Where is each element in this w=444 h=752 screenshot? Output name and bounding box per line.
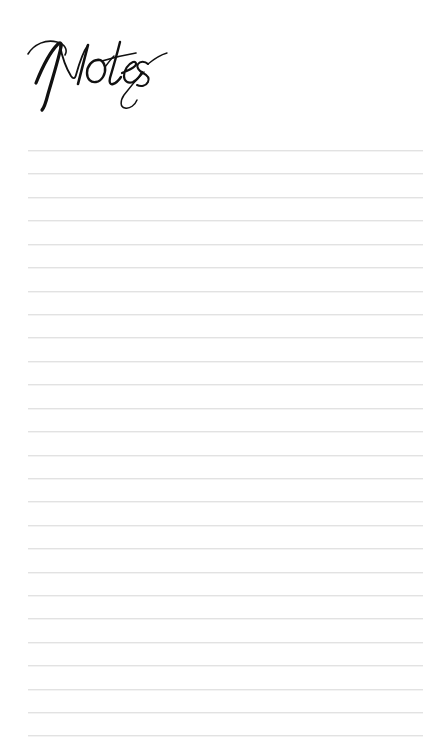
rule-line <box>28 408 423 409</box>
rule-line <box>28 197 423 198</box>
rule-line <box>28 267 423 268</box>
rule-line <box>28 618 423 619</box>
rule-line <box>28 478 423 479</box>
rule-line <box>28 291 423 292</box>
rule-line <box>28 384 423 385</box>
rule-line <box>28 220 423 221</box>
rule-line <box>28 712 423 713</box>
rule-line <box>28 665 423 666</box>
rule-line <box>28 431 423 432</box>
rule-line <box>28 361 423 362</box>
rule-line <box>28 501 423 502</box>
rule-line <box>28 244 423 245</box>
rule-line <box>28 642 423 643</box>
rule-line <box>28 595 423 596</box>
notes-page: Notes <box>0 0 444 752</box>
rule-line <box>28 548 423 549</box>
rule-line <box>28 337 423 338</box>
rule-line <box>28 689 423 690</box>
rule-line <box>28 150 423 151</box>
rule-line <box>28 525 423 526</box>
rule-line <box>28 314 423 315</box>
rule-line <box>28 572 423 573</box>
rule-line <box>28 173 423 174</box>
rule-line <box>28 455 423 456</box>
ruled-lines-area <box>0 0 444 752</box>
rule-line <box>28 735 423 736</box>
